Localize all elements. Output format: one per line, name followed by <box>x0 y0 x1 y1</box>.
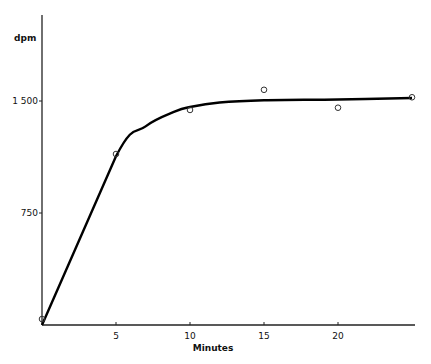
data-point-marker <box>335 105 341 111</box>
x-tick-label: 5 <box>113 331 119 341</box>
x-tick-label: 10 <box>184 331 196 341</box>
x-tick-label: 15 <box>258 331 269 341</box>
fitted-curve <box>42 98 412 325</box>
data-point-marker <box>261 87 267 93</box>
ticks: 51015207501 500 <box>12 96 344 341</box>
y-tick-label: 750 <box>21 208 38 218</box>
y-tick-label: 1 500 <box>12 96 38 106</box>
axes <box>42 15 415 325</box>
y-axis-label: dpm <box>14 33 36 43</box>
x-tick-label: 20 <box>332 331 344 341</box>
curve-line <box>42 98 412 325</box>
x-axis-label: Minutes <box>193 343 234 353</box>
chart: 51015207501 500 dpm Minutes <box>0 0 431 364</box>
